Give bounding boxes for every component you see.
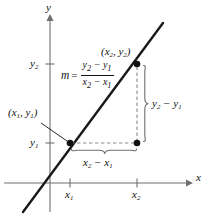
point-x1y1-marker (67, 140, 74, 147)
rise-operator: − (160, 97, 173, 109)
num-b-sub: 1 (107, 64, 111, 73)
y-axis-arrow-icon (46, 14, 53, 21)
point-x1y1-label: (x1, y1) (8, 107, 37, 120)
y1-tick-label-sub: 1 (35, 142, 38, 149)
x1-tick-label: x1 (65, 189, 73, 202)
p1-close-paren: ) (34, 106, 38, 118)
rise-brace-label: y2 − y1 (152, 98, 182, 111)
corner-point-marker (134, 140, 141, 147)
num-operator: − (91, 59, 103, 70)
x2-tick-label-sub: 2 (137, 194, 140, 201)
slope-formula-lhs: m (61, 69, 69, 81)
y2-tick-label: y2 (30, 58, 38, 71)
y1-tick-label: y1 (30, 137, 38, 150)
slope-diagram-figure: y x x1 x2 y1 y2 (x2, y2) (x1, y1) m = y2… (0, 0, 210, 224)
run-operator: − (91, 156, 104, 168)
p2-close-paren: ) (127, 45, 131, 57)
slope-formula-fraction: y2 − y1 x2 − x1 (81, 60, 114, 91)
run-brace (72, 149, 137, 154)
y-axis-label: y (46, 2, 51, 13)
den-b-sub: 1 (107, 81, 111, 90)
y2-tick-label-sub: 2 (35, 63, 38, 70)
point-x2y2-label: (x2, y2) (101, 46, 130, 59)
x-axis-label: x (196, 172, 201, 183)
rise-brace (144, 66, 149, 142)
slope-formula-equals: = (71, 69, 77, 81)
point-x1y1-leader-line (41, 123, 67, 141)
x2-tick-label: x2 (132, 189, 140, 202)
run-b-sub: 1 (109, 162, 112, 169)
rise-b-sub: 1 (178, 103, 181, 110)
den-operator: − (91, 76, 103, 87)
point-x2y2-marker (134, 61, 141, 68)
slope-formula-denominator: x2 − x1 (81, 76, 114, 91)
slope-formula-numerator: y2 − y1 (81, 60, 114, 75)
plotted-line (23, 23, 163, 212)
run-brace-label: x2 − x1 (83, 157, 113, 170)
slope-formula: m = y2 − y1 x2 − x1 (61, 60, 114, 91)
x-axis-arrow-icon (186, 179, 193, 186)
x1-tick-label-sub: 1 (70, 194, 73, 201)
